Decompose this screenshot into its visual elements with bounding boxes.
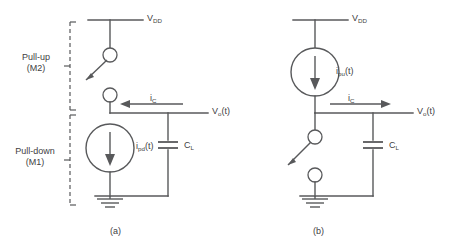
ipd-label-a-sub: pd [138,145,145,152]
cl-label-b-sub: L [396,144,399,151]
bracket-label-pullup-line2: (M2) [27,63,46,73]
cl-label-a-sub: L [191,144,194,151]
ipu-label-b: ipu(t) [336,66,353,77]
ipd-label-a: ipd(t) [136,141,153,152]
vdd-label-b-sub: DD [358,17,367,24]
cl-label-b: CL [389,140,399,151]
ipd-label-a-suffix: (t) [145,141,154,151]
vo-label-b-sub: o [423,110,426,117]
vdd-label-a: VDD [147,13,162,24]
cl-label-a: CL [184,140,194,151]
switch-terminal-bottom-a [103,88,117,102]
ic-label-b-sub: C [350,97,354,104]
ic-label-b: iC [348,93,354,104]
vdd-label-a-sub: DD [153,17,162,24]
vo-label-b: Vo(t) [417,106,435,117]
vdd-label-b: VDD [352,13,367,24]
switch-terminal-top-a [103,48,117,62]
cl-label-a-main: C [184,140,191,150]
circuit-diagram-svg [0,0,449,249]
bracket-label-pullup-line1: Pull-up [22,52,50,62]
caption-b: (b) [313,226,324,237]
switch-terminal-top-b [308,130,322,144]
bracket-label-pulldown: Pull-down (M1) [2,146,68,169]
switch-terminal-bottom-b [308,168,322,182]
vo-label-a-suffix: (t) [221,106,230,116]
ipu-label-b-sub: pu [338,70,345,77]
cl-label-b-main: C [389,140,396,150]
ic-arrowhead-a [120,100,130,108]
bracket-label-pulldown-line1: Pull-down [15,146,55,156]
bracket-label-pullup: Pull-up (M2) [8,52,64,75]
ic-arrowhead-b [381,100,391,108]
vo-label-a-sub: o [218,110,221,117]
figure-root: Pull-up (M2) Pull-down (M1) VDD iC Vo(t)… [0,0,449,249]
ipu-label-b-suffix: (t) [345,66,354,76]
caption-a: (a) [110,226,121,237]
vo-label-a: Vo(t) [212,106,230,117]
vo-label-b-suffix: (t) [426,106,435,116]
bracket-label-pulldown-line2: (M1) [26,157,45,167]
ic-label-a-sub: C [152,97,156,104]
ic-label-a: iC [150,93,156,104]
